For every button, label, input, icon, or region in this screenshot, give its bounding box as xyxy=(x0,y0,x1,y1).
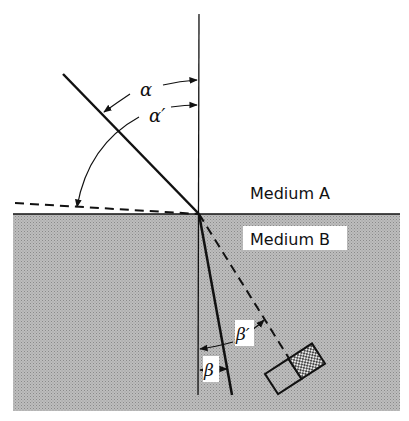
alpha-prime-label: α′ xyxy=(149,105,165,126)
incident-ray xyxy=(63,74,199,214)
medium-b-label: Medium B xyxy=(250,230,330,249)
refraction-diagram: Medium A Medium B α α′ β′ β xyxy=(0,0,409,421)
grazing-ray xyxy=(15,203,199,214)
alpha-prime-arrow-right xyxy=(171,105,197,107)
alpha-prime-arc xyxy=(77,117,139,207)
alpha-arc-arrow-right xyxy=(163,80,197,85)
medium-a-label: Medium A xyxy=(250,184,330,203)
beta-prime-label: β′ xyxy=(235,324,250,344)
alpha-label: α xyxy=(140,79,152,100)
alpha-arc-arrow-left xyxy=(104,94,130,112)
beta-label: β xyxy=(203,360,214,380)
